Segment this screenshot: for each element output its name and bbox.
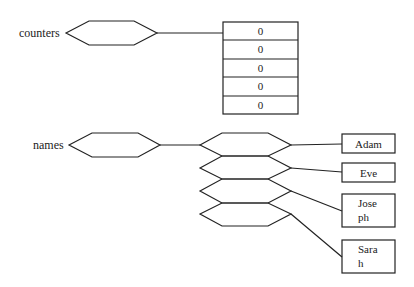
string-value-eve: Eve: [342, 166, 395, 180]
names-reference-hexagon: [69, 133, 160, 157]
counters-cell-0: 0: [223, 22, 298, 40]
pointer-line-sarah: [291, 214, 342, 257]
pointer-line-adam: [291, 144, 342, 145]
string-value-joseph: Jose ph: [342, 196, 395, 224]
names-element-hexagon-3: [200, 203, 291, 226]
counters-cell-2: 0: [223, 59, 298, 77]
counters-reference-hexagon: [66, 21, 157, 45]
string-value-adam: Adam: [342, 137, 395, 151]
counters-label: counters: [19, 26, 60, 40]
names-label: names: [33, 138, 64, 152]
counters-cell-1: 0: [223, 40, 298, 58]
names-element-hexagon-2: [200, 179, 291, 203]
string-value-sarah: Sara h: [342, 242, 395, 270]
counters-cell-4: 0: [223, 96, 298, 114]
names-element-hexagon-1: [200, 156, 291, 179]
pointer-line-eve: [291, 168, 342, 172]
pointer-line-joseph: [291, 191, 342, 211]
names-element-hexagon-0: [200, 133, 291, 156]
counters-cell-3: 0: [223, 77, 298, 95]
